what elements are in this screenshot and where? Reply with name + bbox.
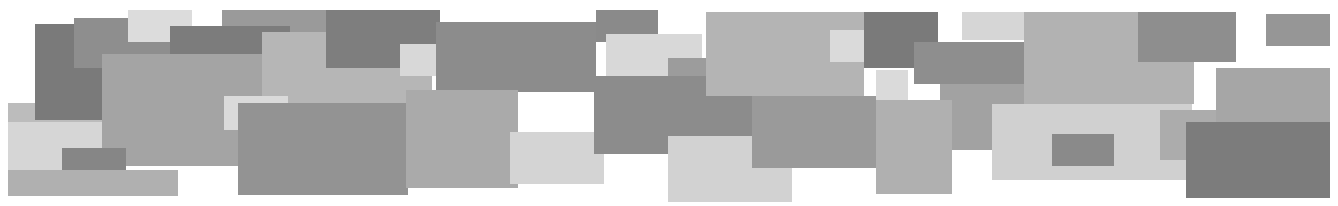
mosaic-tile [406,90,518,188]
mosaic-tile [1052,134,1114,166]
decorative-mosaic-banner [0,0,1338,206]
mosaic-tile [1138,12,1236,62]
mosaic-tile [876,70,908,102]
mosaic-tile [238,103,408,195]
mosaic-tile [876,100,952,194]
mosaic-tile [1266,14,1330,46]
mosaic-tile [510,132,604,184]
mosaic-tile [8,170,178,196]
mosaic-tile [436,22,596,92]
mosaic-tile [668,58,708,78]
mosaic-tile [1186,122,1330,198]
mosaic-tile [1216,68,1330,124]
mosaic-tile [914,42,1024,84]
mosaic-tile [962,12,1026,40]
mosaic-tile [752,96,876,168]
